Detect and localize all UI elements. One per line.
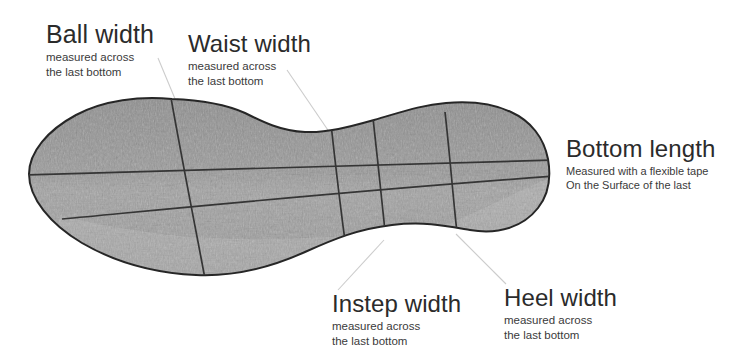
- heel-width-title: Heel width: [504, 285, 617, 310]
- heel-width-sub: measured across the last bottom: [504, 313, 617, 342]
- heel-width-sub-line1: measured across: [504, 313, 617, 328]
- diagram-canvas: Ball width measured across the last bott…: [0, 0, 735, 359]
- instep-width-sub-line2: the last bottom: [332, 334, 461, 349]
- sole-shape-group: [20, 90, 565, 300]
- waist-width-sub-line1: measured across: [188, 59, 311, 74]
- callout-ball-width: Ball width measured across the last bott…: [46, 21, 154, 80]
- bottom-length-sub: Measured with a flexible tape On the Sur…: [566, 164, 715, 192]
- waist-width-title: Waist width: [188, 31, 311, 56]
- heel-width-sub-line2: the last bottom: [504, 328, 617, 343]
- instep-width-sub-line1: measured across: [332, 319, 461, 334]
- ball-width-title: Ball width: [46, 21, 154, 47]
- instep-width-sub: measured across the last bottom: [332, 319, 461, 348]
- callout-waist-width: Waist width measured across the last bot…: [188, 31, 311, 89]
- ball-width-sub: measured across the last bottom: [46, 50, 154, 79]
- callout-bottom-length: Bottom length Measured with a flexible t…: [566, 136, 715, 192]
- waist-width-sub-line2: the last bottom: [188, 74, 311, 89]
- heel-width-leader: [456, 234, 506, 284]
- callout-instep-width: Instep width measured across the last bo…: [332, 291, 461, 349]
- bottom-length-sub-line2: On the Surface of the last: [566, 178, 715, 192]
- bottom-length-title: Bottom length: [566, 136, 715, 161]
- callout-heel-width: Heel width measured across the last bott…: [504, 285, 617, 343]
- instep-width-title: Instep width: [332, 291, 461, 316]
- ball-width-sub-line1: measured across: [46, 50, 154, 65]
- sole-texture: [20, 90, 565, 300]
- bottom-length-sub-line1: Measured with a flexible tape: [566, 164, 715, 178]
- instep-width-leader: [338, 240, 384, 290]
- waist-width-sub: measured across the last bottom: [188, 59, 311, 88]
- ball-width-sub-line2: the last bottom: [46, 65, 154, 80]
